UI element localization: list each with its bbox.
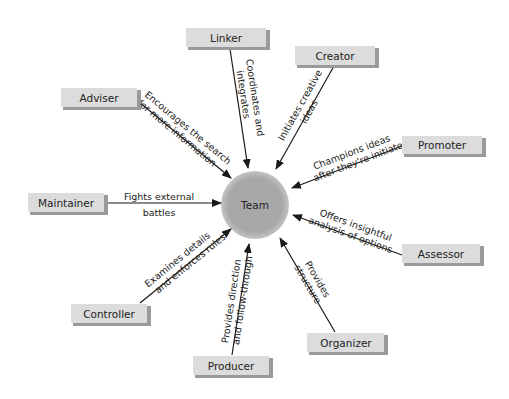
assessor-box: Assessor [402, 244, 484, 266]
assessor-label: Assessor [418, 248, 465, 260]
creator-label: Creator [315, 50, 355, 62]
organizer-label: Organizer [320, 337, 372, 349]
producer-box: Producer [193, 356, 273, 378]
adviser-label: Adviser [79, 92, 119, 104]
adviser-box: Adviser [61, 88, 141, 110]
creator-box: Creator [295, 46, 379, 68]
promoter-box: Promoter [402, 136, 486, 157]
maintainer-box: Maintainer [28, 193, 108, 215]
role-maintainer: Fights external battles Maintainer [28, 191, 221, 218]
maintainer-label: Maintainer [38, 197, 95, 209]
role-adviser: Encourages the search for more informati… [61, 88, 234, 178]
maintainer-description-line1: Fights external [124, 191, 194, 202]
organizer-box: Organizer [307, 333, 388, 355]
linker-box: Linker [186, 28, 270, 50]
linker-label: Linker [210, 32, 243, 44]
team-node: Team [221, 171, 289, 239]
maintainer-description-line2: battles [143, 207, 176, 218]
role-organizer: Provides structure Organizer [280, 238, 388, 355]
producer-label: Producer [208, 360, 255, 372]
role-producer: Provides direction and follow-through Pr… [193, 244, 273, 378]
role-promoter: Champions ideas after they're initiated … [292, 127, 486, 188]
promoter-label: Promoter [418, 139, 467, 151]
team-label: Team [240, 199, 269, 211]
adviser-description-line2: for more information [136, 97, 219, 168]
role-assessor: Offers insightful analysis of options As… [293, 204, 484, 266]
controller-label: Controller [83, 308, 135, 320]
team-roles-diagram: Team Coordinates and integrates Linker I… [0, 0, 509, 399]
controller-box: Controller [71, 304, 151, 326]
adviser-description-line1: Encourages the search [143, 89, 234, 167]
role-controller: Examines details and enforces rules Cont… [71, 223, 231, 326]
